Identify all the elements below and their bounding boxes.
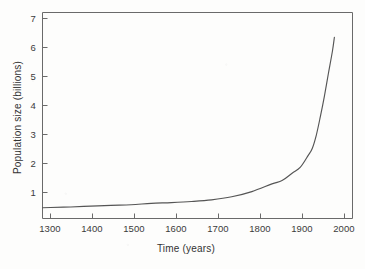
population-curve (43, 37, 335, 208)
axis-frame (43, 13, 353, 219)
y-axis-ticks (43, 19, 48, 193)
x-tick-label-1400: 1400 (75, 223, 109, 234)
population-growth-chart: 1 2 3 4 5 6 7 1300 1400 1500 1600 1700 1… (0, 0, 365, 269)
x-axis-title: Time (years) (122, 243, 250, 254)
x-tick-label-1300: 1300 (33, 223, 67, 234)
x-axis-ticks (51, 214, 345, 219)
y-axis-title: Population size (billions) (12, 50, 23, 186)
x-tick-label-1900: 1900 (285, 223, 319, 234)
x-tick-label-1500: 1500 (117, 223, 151, 234)
x-tick-label-1700: 1700 (201, 223, 235, 234)
y-tick-label-1: 1 (20, 187, 36, 198)
x-tick-label-1600: 1600 (159, 223, 193, 234)
x-tick-label-1800: 1800 (243, 223, 277, 234)
x-tick-label-2000: 2000 (327, 223, 361, 234)
y-tick-label-7: 7 (20, 13, 36, 24)
